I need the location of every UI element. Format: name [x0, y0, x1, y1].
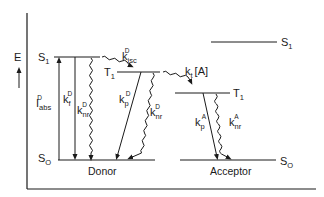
donor-group: S1 T1 SO IabsD kfD knrD kiscD kpD knrD D… — [36, 47, 163, 177]
nonradiative-singlet-label: knrD — [77, 101, 90, 119]
absorption-label: IabsD — [36, 94, 51, 112]
energy-axis-label: E — [14, 51, 21, 88]
isc-label: kiscD — [122, 47, 137, 65]
energy-transfer-group: kt[A] — [163, 65, 208, 82]
donor-caption: Donor — [88, 165, 117, 177]
acceptor-phosphorescence-label: kpA — [195, 113, 207, 131]
acceptor-t1-label: T1 — [233, 87, 244, 102]
jablonski-diagram: E S1 T1 SO IabsD kfD knrD kiscD kpD knrD — [0, 0, 324, 197]
donor-t1-label: T1 — [104, 66, 115, 81]
acceptor-s1-label: S1 — [281, 36, 293, 51]
nonradiative-singlet-wavy-arrow-icon — [90, 58, 93, 158]
acceptor-group: S1 T1 SO kpA knrA Acceptor — [175, 36, 293, 177]
donor-phosphorescence-arrow-icon — [117, 72, 141, 157]
donor-s1-label: S1 — [38, 51, 50, 66]
donor-s0-label: SO — [38, 152, 51, 167]
acceptor-caption: Acceptor — [210, 165, 252, 177]
fluorescence-label: kfD — [63, 90, 73, 108]
donor-nonradiative-triplet-label: knrD — [150, 103, 163, 121]
donor-phosphorescence-label: kpD — [119, 90, 131, 108]
acceptor-nonradiative-triplet-wavy-arrow-icon — [215, 94, 229, 158]
acceptor-s0-label: SO — [280, 155, 293, 170]
acceptor-nonradiative-triplet-label: knrA — [229, 113, 242, 131]
energy-label: E — [14, 51, 21, 63]
